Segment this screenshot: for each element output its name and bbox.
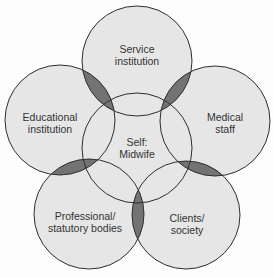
label-clients-line2: society [169,224,204,236]
venn-diagram: Service institution Medical staff Client… [0,0,274,277]
label-educational: Educational institution [23,111,78,135]
label-medical-line1: Medical [207,111,243,123]
label-self-line2: Midwife [119,148,155,160]
label-medical-line2: staff [207,123,243,135]
label-self-line1: Self: [119,136,155,148]
label-service-line1: Service [115,43,159,55]
label-service: Service institution [115,43,159,67]
label-clients-line1: Clients/ [169,212,204,224]
label-clients: Clients/ society [169,212,204,236]
label-professional-line2: statutory bodies [48,222,122,234]
label-self: Self: Midwife [119,136,155,160]
label-professional: Professional/ statutory bodies [48,210,122,234]
label-professional-line1: Professional/ [48,210,122,222]
label-service-line2: institution [115,55,159,67]
label-educational-line2: institution [23,123,78,135]
label-medical: Medical staff [207,111,243,135]
label-educational-line1: Educational [23,111,78,123]
